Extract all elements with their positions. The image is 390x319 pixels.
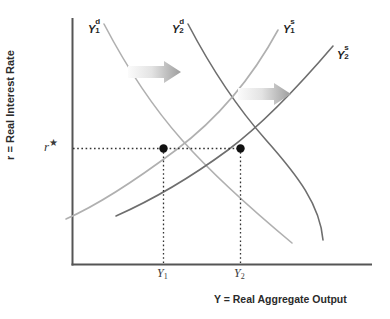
x-tick-label-y2: Y2	[234, 266, 245, 281]
curve-label-s1-base: Y	[283, 23, 290, 35]
curve-label-d2-sup: d	[179, 17, 184, 26]
x-tick-y2-sub: 2	[241, 272, 245, 281]
x-tick-y1-sub: 1	[164, 272, 168, 281]
curve-label-demand-1: Yd1	[88, 22, 101, 35]
equilibrium-point-1	[159, 144, 167, 152]
x-tick-label-y1: Y1	[157, 266, 168, 281]
x-axis-label: Y = Real Aggregate Output	[214, 293, 347, 305]
economics-supply-demand-figure: r = Real Interest Rate Y = Real Aggregat…	[0, 0, 390, 319]
curve-label-d1-sub: 1	[95, 26, 99, 35]
curve-label-s2-sup: s	[344, 43, 348, 52]
curve-demand-2	[188, 24, 323, 240]
curve-label-d2-sub: 2	[179, 26, 183, 35]
curve-label-supply-1: Ys1	[283, 22, 296, 35]
x-tick-y1-base: Y	[157, 266, 164, 280]
curve-label-demand-2: Yd2	[172, 22, 185, 35]
y-axis-label: r = Real Interest Rate	[4, 10, 24, 200]
curve-label-s1-sub: 1	[290, 26, 294, 35]
curve-label-s1-sup: s	[290, 17, 294, 26]
equilibrium-point-2	[236, 144, 244, 152]
curve-supply-1	[66, 30, 278, 219]
chart-canvas	[0, 0, 390, 319]
r-star-asterisk: ★	[49, 137, 58, 148]
curve-label-s2-sub: 2	[344, 52, 348, 61]
curve-label-d1-base: Y	[88, 23, 95, 35]
curve-label-supply-2: Ys2	[337, 48, 350, 61]
curve-demand-1	[104, 24, 292, 243]
y-tick-label-r-star: r★	[44, 137, 58, 155]
curve-label-d2-base: Y	[172, 23, 179, 35]
curve-label-s2-base: Y	[337, 49, 344, 61]
curve-label-d1-sup: d	[95, 17, 100, 26]
x-tick-y2-base: Y	[234, 266, 241, 280]
